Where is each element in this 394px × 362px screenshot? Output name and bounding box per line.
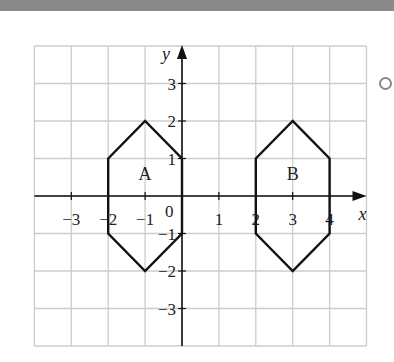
y-axis-arrow-icon [177, 45, 187, 59]
origin-label: 0 [165, 202, 174, 221]
y-tick-label: −2 [158, 262, 176, 281]
x-axis-label: x [358, 204, 367, 224]
x-tick-label: 1 [215, 210, 224, 229]
y-tick-label: 2 [168, 112, 177, 131]
coordinate-grid-diagram: xy0−3−2−11234321−1−2−3AB [0, 0, 394, 362]
y-tick-label: −3 [158, 300, 176, 319]
shape-label-a: A [139, 164, 152, 184]
x-tick-label: −1 [136, 210, 154, 229]
y-tick-label: 3 [168, 75, 177, 94]
shape-label-b: B [287, 164, 299, 184]
x-axis-arrow-icon [353, 191, 367, 201]
x-tick-label: −3 [62, 210, 80, 229]
y-axis-label: y [160, 44, 170, 64]
x-tick-label: 3 [288, 210, 297, 229]
